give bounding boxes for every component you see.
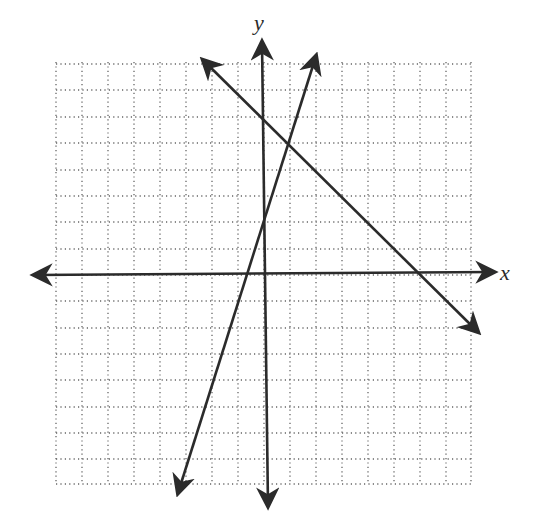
x-axis-label: x (500, 260, 510, 286)
coordinate-plane (0, 0, 534, 519)
y-axis-label: y (254, 10, 264, 36)
decreasing-line (203, 60, 478, 332)
